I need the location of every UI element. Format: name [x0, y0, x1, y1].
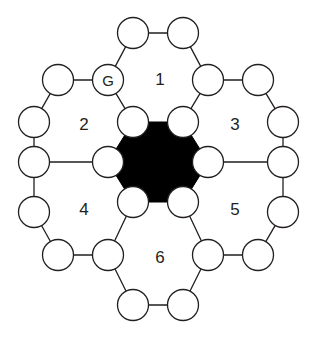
- hexagonal-ring-diagram: G 123456: [0, 0, 322, 338]
- ring-label-1: 1: [155, 70, 164, 89]
- node-circle-shape: [118, 187, 149, 218]
- node-circle-shape: [118, 290, 149, 321]
- bond-line: [190, 46, 201, 67]
- node-circle-shape: [168, 18, 199, 49]
- node-circle-shape: [43, 65, 74, 96]
- node-circle-shape: [19, 107, 50, 138]
- node-circle: [168, 107, 199, 138]
- bond-line: [189, 215, 201, 241]
- node-circle-shape: [243, 240, 274, 271]
- node-circle-shape: [268, 107, 299, 138]
- bond-line: [115, 268, 127, 291]
- node-circle: [168, 18, 199, 49]
- node-circle: [93, 147, 124, 178]
- node-circle-shape: [19, 147, 50, 178]
- node-circle: [19, 107, 50, 138]
- node-circle-shape: [168, 187, 199, 218]
- node-circle-shape: [168, 290, 199, 321]
- node-circle: [118, 187, 149, 218]
- ring-label-6: 6: [155, 248, 164, 267]
- bond-line: [266, 93, 276, 109]
- lattice-canvas: G 123456: [0, 0, 322, 338]
- node-circle-shape: [243, 65, 274, 96]
- node-circle: [193, 65, 224, 96]
- node-circle: [93, 240, 124, 271]
- node-circle-shape: [118, 107, 149, 138]
- node-circle: [268, 197, 299, 228]
- bond-line: [265, 225, 275, 242]
- bond-line: [114, 215, 126, 241]
- node-label: G: [102, 72, 114, 89]
- node-circle-shape: [118, 18, 149, 49]
- ring-label-5: 5: [230, 200, 239, 219]
- bond-line: [115, 46, 126, 67]
- node-circle: [43, 240, 74, 271]
- node-circle-shape: [93, 147, 124, 178]
- node-circle: [193, 240, 224, 271]
- node-circle: [168, 290, 199, 321]
- ring-label-3: 3: [230, 115, 239, 134]
- node-circle-shape: [19, 197, 50, 228]
- node-circle: [118, 290, 149, 321]
- node-circle: [193, 147, 224, 178]
- node-circle: [118, 107, 149, 138]
- node-circle: [268, 107, 299, 138]
- bond-line: [116, 93, 126, 109]
- node-circle: [43, 65, 74, 96]
- node-circle-shape: [93, 240, 124, 271]
- node-circle: [243, 240, 274, 271]
- node-circle: [268, 147, 299, 178]
- bond-line: [41, 225, 50, 242]
- node-circle: [19, 147, 50, 178]
- ring-label-4: 4: [79, 200, 88, 219]
- bond-line: [191, 93, 201, 109]
- node-circle-shape: [193, 65, 224, 96]
- node-circle-shape: [193, 240, 224, 271]
- node-circle: [243, 65, 274, 96]
- bond-line: [190, 268, 202, 291]
- node-circle-shape: [168, 107, 199, 138]
- node-circle-shape: [43, 240, 74, 271]
- node-circle-shape: [268, 147, 299, 178]
- bond-line: [41, 93, 50, 109]
- node-circle: [168, 187, 199, 218]
- node-circle-shape: [268, 197, 299, 228]
- node-circle-shape: [193, 147, 224, 178]
- node-circle-labeled: G: [93, 65, 124, 96]
- node-circle: [19, 197, 50, 228]
- node-circle: [118, 18, 149, 49]
- ring-label-2: 2: [79, 115, 88, 134]
